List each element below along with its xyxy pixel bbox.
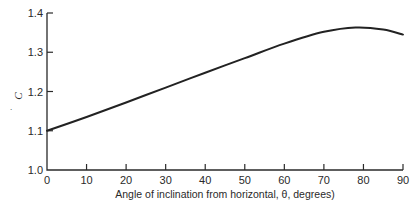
x-tick-label: 80 (357, 174, 369, 186)
y-axis-label: C (12, 92, 24, 100)
y-tick-label: 1.3 (28, 46, 43, 58)
x-tick-label: 60 (278, 174, 290, 186)
x-tick-label: 20 (120, 174, 132, 186)
ticks: 01020304050607080901.01.11.21.31.4 (28, 7, 409, 186)
x-tick-label: 40 (199, 174, 211, 186)
y-tick-label: 1.4 (28, 7, 43, 19)
x-tick-label: 10 (80, 174, 92, 186)
y-tick-label: 1.1 (28, 125, 43, 137)
x-tick-label: 30 (160, 174, 172, 186)
data-series (47, 27, 403, 130)
x-tick-label: 70 (318, 174, 330, 186)
y-tick-label: 1.0 (28, 164, 43, 176)
axis-lines (47, 13, 403, 170)
x-tick-label: 90 (397, 174, 409, 186)
x-tick-label: 50 (239, 174, 251, 186)
axes (47, 13, 403, 170)
stray-mark: . (10, 103, 12, 112)
x-tick-label: 0 (44, 174, 50, 186)
x-axis-label: Angle of inclination from horizontal, θ,… (115, 188, 334, 200)
y-tick-label: 1.2 (28, 86, 43, 98)
curve-c (47, 27, 403, 130)
chart: 01020304050607080901.01.11.21.31.4 Angle… (0, 0, 416, 205)
